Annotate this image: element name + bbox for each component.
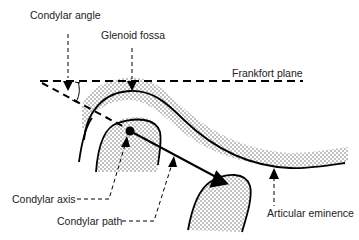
condylar-path-leader xyxy=(122,164,172,221)
label-condylar-angle: Condylar angle xyxy=(30,9,101,21)
label-condylar-axis: Condylar axis xyxy=(12,193,76,205)
articular-eminence-leader-arrowhead xyxy=(269,168,279,179)
angle-arc-tick-top xyxy=(75,82,80,83)
condylar-path-leader-arrowhead xyxy=(168,156,177,167)
label-glenoid-fossa: Glenoid fossa xyxy=(101,29,165,41)
label-condylar-path: Condylar path xyxy=(57,215,123,227)
condylar-angle-arc xyxy=(76,82,79,102)
condylar-angle-leader-arrowhead xyxy=(63,81,73,91)
condylar-angle-diagram: Condylar angle Glenoid fossa Frankfort p… xyxy=(0,0,359,240)
label-frankfort-plane: Frankfort plane xyxy=(232,67,303,79)
label-articular-eminence: Articular eminence xyxy=(267,207,354,219)
